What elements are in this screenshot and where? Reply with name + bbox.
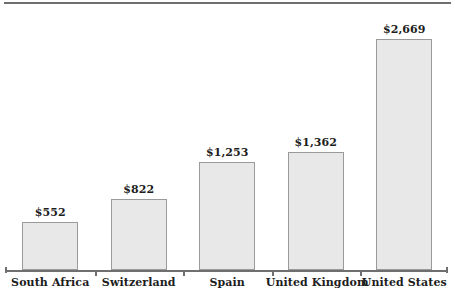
bar-value-label: $822	[94, 183, 184, 196]
bar	[199, 162, 255, 270]
bar	[111, 199, 167, 270]
bar-value-label: $1,362	[271, 136, 361, 149]
bar	[22, 222, 78, 270]
x-axis-right-cap	[446, 267, 448, 273]
category-label: United Kingdom	[266, 276, 366, 289]
category-label: United States	[354, 276, 454, 289]
bar	[288, 152, 344, 270]
bar-value-label: $552	[5, 206, 95, 219]
bar-value-label: $2,669	[359, 23, 449, 36]
bar	[376, 39, 432, 270]
category-label: South Africa	[0, 276, 100, 289]
x-axis-left-cap	[5, 267, 7, 273]
category-label: Switzerland	[89, 276, 189, 289]
bar-value-label: $1,253	[182, 146, 272, 159]
bar-chart: $552$822$1,253$1,362$2,669 South AfricaS…	[0, 0, 455, 303]
category-label: Spain	[177, 276, 277, 289]
plot-area: $552$822$1,253$1,362$2,669	[0, 0, 455, 272]
x-axis-line	[5, 270, 448, 272]
